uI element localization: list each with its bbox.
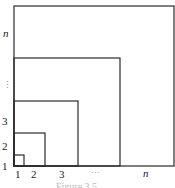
x-label-2: 2 bbox=[31, 169, 37, 180]
y-label-3: 3 bbox=[2, 116, 8, 127]
y-label-2: 2 bbox=[2, 141, 8, 152]
x-label-ellipsis: ··· bbox=[91, 167, 100, 178]
x-label-1: 1 bbox=[15, 169, 21, 180]
figure-caption: Figure 3.5 bbox=[56, 181, 97, 188]
x-label-3: 3 bbox=[59, 169, 65, 180]
square-n bbox=[14, 6, 174, 166]
square-ellipsis bbox=[14, 58, 120, 166]
square-1 bbox=[14, 155, 24, 166]
y-label-n: n bbox=[3, 28, 9, 39]
square-2 bbox=[14, 133, 45, 166]
y-label-1: 1 bbox=[2, 161, 8, 172]
nested-squares-diagram bbox=[0, 0, 175, 188]
x-label-n: n bbox=[143, 168, 149, 179]
y-label-ellipsis: ⋮ bbox=[3, 80, 12, 91]
